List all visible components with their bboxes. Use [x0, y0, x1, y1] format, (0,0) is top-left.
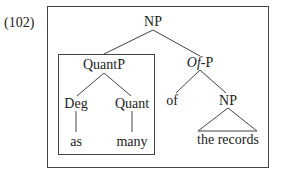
branch-np-ofp [153, 30, 200, 56]
node-quant: Quant [115, 96, 149, 112]
branch-ofp-np [200, 70, 226, 93]
tree-lines [0, 0, 283, 177]
node-deg: Deg [64, 96, 87, 112]
node-quantp: QuantP [83, 57, 125, 73]
branch-ofp-of [176, 70, 200, 93]
node-np-root: NP [144, 14, 162, 30]
node-of: of [166, 93, 178, 109]
branch-quantp-deg [77, 73, 104, 96]
leaf-many: many [116, 134, 147, 150]
node-ofp: Of-P [187, 55, 213, 71]
node-np-lower: NP [219, 93, 237, 109]
branch-quantp-quant [104, 73, 131, 96]
np-triangle [198, 108, 257, 131]
leaf-as: as [70, 134, 82, 150]
node-ofp-italic: Of [187, 55, 201, 70]
node-ofp-rest: -P [201, 55, 213, 70]
leaf-the-records: the records [197, 132, 259, 148]
branch-np-quantp [104, 30, 153, 54]
